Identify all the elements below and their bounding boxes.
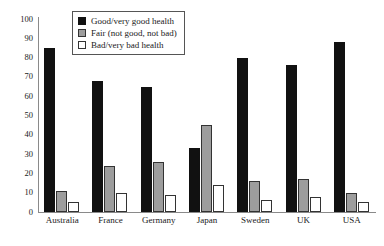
legend-entry: Bad/very bad health — [78, 39, 177, 51]
bar — [261, 200, 272, 212]
x-axis-tick-label: UK — [279, 216, 327, 226]
x-axis-tick-label: Sweden — [231, 216, 279, 226]
legend-label: Bad/very bad health — [91, 41, 163, 50]
y-axis-tick-label: 50 — [0, 111, 33, 120]
bar — [286, 65, 297, 212]
y-axis-tick-label: 10 — [0, 188, 33, 197]
bar — [249, 181, 260, 212]
bar-group — [237, 19, 273, 212]
bar — [358, 202, 369, 212]
bar-group — [334, 19, 370, 212]
y-axis-tick-label: 40 — [0, 130, 33, 139]
x-axis-tick-label: France — [86, 216, 134, 226]
bar — [153, 162, 164, 212]
x-axis-line — [38, 212, 376, 213]
y-axis-tick-label: 20 — [0, 169, 33, 178]
bar — [237, 58, 248, 212]
bar — [189, 148, 200, 212]
bar — [141, 87, 152, 212]
bar — [116, 193, 127, 212]
legend-label: Fair (not good, not bad) — [91, 29, 177, 38]
legend-label: Good/very good health — [91, 17, 174, 26]
bar — [104, 166, 115, 212]
legend-swatch-icon — [78, 17, 86, 25]
y-axis-tick-label: 60 — [0, 92, 33, 101]
x-axis-tick-label: Germany — [135, 216, 183, 226]
legend-entry: Fair (not good, not bad) — [78, 27, 177, 39]
legend-swatch-icon — [78, 41, 86, 49]
bar — [44, 48, 55, 212]
x-axis-tick-label: Australia — [38, 216, 86, 226]
x-axis-tick-label: USA — [328, 216, 376, 226]
legend-entry: Good/very good health — [78, 15, 177, 27]
y-axis-tick-label: 70 — [0, 72, 33, 81]
x-axis-tick-label: Japan — [183, 216, 231, 226]
bar — [213, 185, 224, 212]
bar — [201, 125, 212, 212]
bar-group — [189, 19, 225, 212]
y-axis-tick-label: 90 — [0, 34, 33, 43]
bar — [310, 197, 321, 212]
bar — [56, 191, 67, 212]
bar-chart: 0102030405060708090100 AustraliaFranceGe… — [0, 0, 384, 246]
bar — [346, 193, 357, 212]
y-axis-tick-labels: 0102030405060708090100 — [0, 0, 34, 246]
y-axis-tick-label: 0 — [0, 208, 33, 217]
bar — [165, 195, 176, 212]
y-axis-tick-label: 80 — [0, 53, 33, 62]
bar — [68, 202, 79, 212]
bar — [334, 42, 345, 212]
bar — [298, 179, 309, 212]
legend-swatch-icon — [78, 29, 86, 37]
chart-legend: Good/very good healthFair (not good, not… — [72, 11, 185, 55]
y-axis-tick-label: 100 — [0, 15, 33, 24]
bar — [92, 81, 103, 212]
y-axis-tick-label: 30 — [0, 150, 33, 159]
bar-group — [286, 19, 322, 212]
